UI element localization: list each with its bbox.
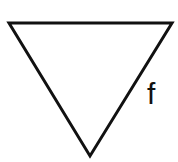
diagram-canvas: f [0, 0, 178, 162]
side-label-f: f [147, 79, 155, 109]
